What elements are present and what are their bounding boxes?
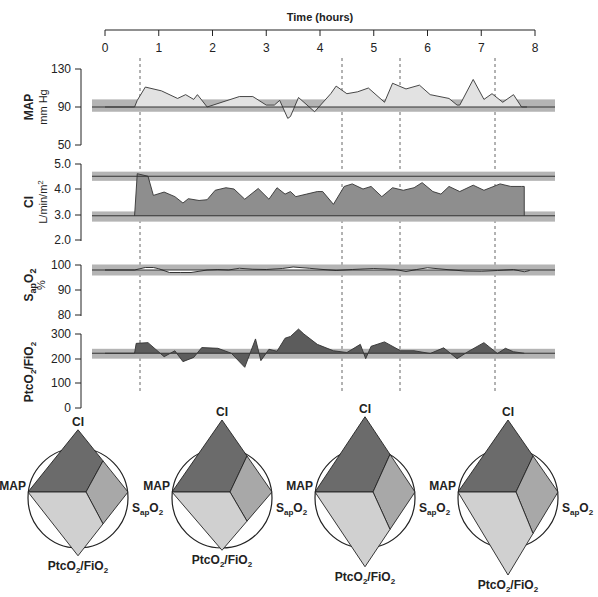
radar-label-ptc: PtcO2/FiO2 bbox=[192, 553, 253, 569]
radar-label-ptc: PtcO2/FiO2 bbox=[335, 570, 396, 586]
radar-label-map: MAP bbox=[0, 479, 26, 493]
map-panel: MAP mm Hg 1309050 bbox=[22, 62, 555, 152]
ptc-panel: PtcO2/FiO2 3002001000 bbox=[22, 327, 555, 415]
y-tick-label: 130 bbox=[51, 62, 71, 76]
time-axis-title: Time (hours) bbox=[287, 11, 354, 23]
radar-label-ptc: PtcO2/FiO2 bbox=[48, 559, 109, 575]
radar-label-sap: SapO2 bbox=[132, 501, 164, 517]
radar-label-ci: CI bbox=[502, 405, 514, 419]
time-tick-label: 4 bbox=[317, 41, 324, 55]
radar-label-sap: SapO2 bbox=[419, 501, 451, 517]
time-tick-label: 7 bbox=[478, 41, 485, 55]
radar-diagram: CIMAPSapO2PtcO2/FiO2 bbox=[0, 415, 164, 575]
y-tick-label: 100 bbox=[51, 258, 71, 272]
radar-label-ci: CI bbox=[72, 415, 84, 429]
y-tick-label: 100 bbox=[51, 376, 71, 390]
time-tick-label: 1 bbox=[155, 41, 162, 55]
radar-label-sap: SapO2 bbox=[562, 501, 594, 517]
y-tick-label: 3.0 bbox=[54, 208, 71, 222]
y-tick-label: 90 bbox=[58, 100, 72, 114]
time-tick-label: 6 bbox=[424, 41, 431, 55]
y-tick-label: 90 bbox=[58, 283, 72, 297]
y-tick-label: 300 bbox=[51, 327, 71, 341]
y-tick-label: 50 bbox=[58, 138, 72, 152]
time-tick-label: 5 bbox=[370, 41, 377, 55]
sap-panel: SapO2 % 1009080 bbox=[22, 258, 555, 322]
radar-label-map: MAP bbox=[143, 479, 170, 493]
sap-unit: % bbox=[35, 280, 47, 290]
y-tick-label: 80 bbox=[58, 308, 72, 322]
radar-diagram: CIMAPSapO2PtcO2/FiO2 bbox=[143, 405, 307, 569]
y-tick-label: 2.0 bbox=[54, 233, 71, 247]
ci-unit: L/min/m2 bbox=[36, 180, 49, 224]
time-tick-label: 0 bbox=[102, 41, 109, 55]
map-label: MAP bbox=[22, 94, 36, 121]
time-tick-label: 2 bbox=[209, 41, 216, 55]
time-tick-label: 3 bbox=[263, 41, 270, 55]
y-tick-label: 0 bbox=[64, 401, 71, 415]
radar-label-ci: CI bbox=[216, 405, 228, 419]
ci-panel: CI L/min/m2 5.04.03.02.0 bbox=[22, 157, 555, 247]
ci-label: CI bbox=[22, 196, 36, 208]
physiology-figure: Time (hours) 012345678 MAP mm Hg 1309050… bbox=[0, 0, 598, 597]
radar-label-ci: CI bbox=[359, 402, 371, 416]
radar-diagram: CIMAPSapO2PtcO2/FiO2 bbox=[286, 402, 450, 586]
radar-label-map: MAP bbox=[429, 479, 456, 493]
y-tick-label: 4.0 bbox=[54, 182, 71, 196]
radar-diagram: CIMAPSapO2PtcO2/FiO2 bbox=[429, 405, 593, 594]
y-tick-label: 5.0 bbox=[54, 157, 71, 171]
map-unit: mm Hg bbox=[37, 89, 49, 124]
ptc-label: PtcO2/FiO2 bbox=[22, 341, 38, 402]
time-tick-label: 8 bbox=[532, 41, 539, 55]
radar-label-map: MAP bbox=[286, 479, 313, 493]
radar-label-sap: SapO2 bbox=[276, 501, 308, 517]
radar-diagrams: CIMAPSapO2PtcO2/FiO2CIMAPSapO2PtcO2/FiO2… bbox=[0, 402, 594, 594]
radar-label-ptc: PtcO2/FiO2 bbox=[478, 578, 539, 594]
y-tick-label: 200 bbox=[51, 352, 71, 366]
time-axis: Time (hours) 012345678 bbox=[102, 11, 539, 55]
